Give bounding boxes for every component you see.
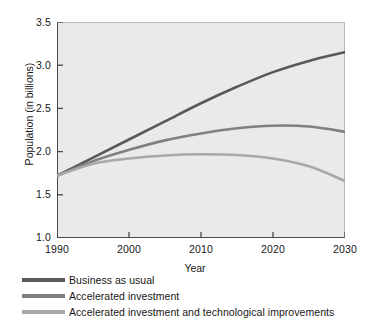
legend-label: Accelerated investment bbox=[69, 290, 179, 302]
tick-marks bbox=[57, 22, 345, 238]
x-tick-label: 2000 bbox=[107, 243, 151, 255]
y-tick-label: 3.5 bbox=[17, 16, 51, 28]
legend-swatch-icon bbox=[22, 310, 65, 313]
x-tick-label: 1990 bbox=[35, 243, 79, 255]
y-tick-label: 1.0 bbox=[17, 231, 51, 243]
series-lines bbox=[57, 52, 345, 181]
x-tick-label: 2030 bbox=[323, 243, 367, 255]
y-axis-title: Population (in billions) bbox=[23, 29, 35, 199]
plot-canvas bbox=[57, 22, 345, 238]
legend-item-business-as-usual: Business as usual bbox=[22, 272, 362, 288]
population-projection-chart: 3.5 3.0 2.5 2.0 1.5 1.0 1990 2000 2010 2… bbox=[0, 0, 372, 327]
legend-swatch-icon bbox=[22, 278, 65, 281]
x-tick-label: 2010 bbox=[179, 243, 223, 255]
legend-item-accelerated-investment-and-tech: Accelerated investment and technological… bbox=[22, 304, 362, 320]
legend-label: Business as usual bbox=[69, 274, 154, 286]
legend-item-accelerated-investment: Accelerated investment bbox=[22, 288, 362, 304]
chart-legend: Business as usual Accelerated investment… bbox=[22, 272, 362, 320]
legend-swatch-icon bbox=[22, 294, 65, 297]
series-line-1 bbox=[57, 126, 345, 176]
legend-label: Accelerated investment and technological… bbox=[69, 306, 334, 318]
series-line-0 bbox=[57, 52, 345, 176]
x-tick-label: 2020 bbox=[251, 243, 295, 255]
